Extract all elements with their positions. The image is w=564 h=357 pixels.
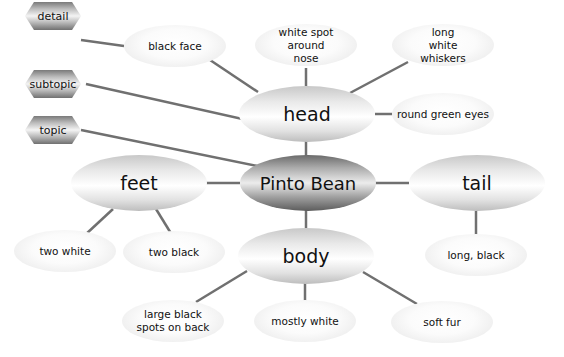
subtopic-label: body: [283, 245, 330, 267]
detail-long-black: long, black: [425, 234, 527, 276]
detail-white-spot: white spot around nose: [255, 24, 357, 66]
detail-two-black: two black: [123, 231, 225, 273]
detail-label: long, black: [447, 249, 504, 262]
topic-label: Pinto Bean: [260, 173, 357, 194]
detail-label: large black spots on back: [130, 308, 216, 334]
legend-detail: detail: [25, 2, 81, 30]
subtopic-label: head: [283, 103, 330, 125]
subtopic-tail: tail: [409, 155, 545, 211]
detail-green-eyes: round green eyes: [392, 93, 494, 135]
legend-topic: topic: [25, 116, 81, 144]
legend-topic-label: topic: [39, 124, 66, 137]
detail-label: two black: [149, 246, 199, 259]
detail-label: round green eyes: [397, 108, 489, 121]
detail-black-face: black face: [124, 25, 226, 67]
legend-detail-label: detail: [38, 10, 69, 23]
legend-subtopic: subtopic: [25, 70, 81, 98]
subtopic-head: head: [239, 86, 375, 142]
subtopic-label: tail: [462, 172, 492, 194]
detail-label: two white: [39, 245, 90, 258]
detail-mostly-white: mostly white: [254, 300, 356, 342]
subtopic-feet: feet: [71, 155, 207, 211]
detail-black-spots: large black spots on back: [122, 300, 224, 342]
detail-label: mostly white: [271, 315, 338, 328]
detail-label: black face: [148, 40, 202, 53]
legend-subtopic-label: subtopic: [30, 78, 77, 91]
detail-label: white spot around nose: [277, 26, 335, 65]
topic-pinto-bean: Pinto Bean: [240, 155, 376, 211]
detail-two-white: two white: [14, 230, 116, 272]
detail-label: soft fur: [423, 316, 461, 329]
detail-soft-fur: soft fur: [391, 301, 493, 343]
detail-label: long white whiskers: [416, 26, 470, 65]
subtopic-body: body: [238, 228, 374, 284]
subtopic-label: feet: [120, 172, 158, 194]
detail-whiskers: long white whiskers: [392, 24, 494, 66]
